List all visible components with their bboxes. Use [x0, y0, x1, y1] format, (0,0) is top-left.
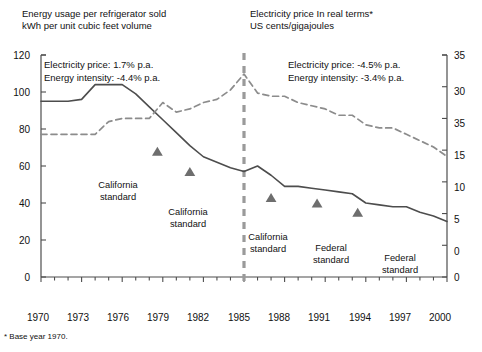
marker-label-california-2-line1: California — [168, 207, 207, 217]
marker-label-federal-1-line1: Federal — [315, 243, 347, 253]
xtick-1976: 1976 — [98, 312, 138, 323]
footnote: * Base year 1970. — [4, 332, 68, 341]
marker-label-california-3-line1: California — [248, 232, 287, 242]
marker-triangle-4 — [312, 199, 323, 208]
marker-triangle-2 — [184, 167, 195, 176]
xtick-1979: 1979 — [138, 312, 178, 323]
xtick-1994: 1994 — [340, 312, 380, 323]
xtick-2000: 2000 — [420, 312, 460, 323]
ytick-right-10: 5 — [454, 214, 480, 225]
marker-label-california-1-line1: California — [98, 180, 137, 190]
ytick-left-60: 60 — [4, 161, 30, 172]
xtick-1991: 1991 — [299, 312, 339, 323]
xtick-1997: 1997 — [380, 312, 420, 323]
ytick-right-30: 30 — [454, 86, 480, 97]
marker-label-federal-2: Federalstandard — [370, 253, 430, 276]
marker-triangle-5 — [352, 208, 363, 217]
ytick-right-35: 35 — [454, 50, 480, 61]
marker-label-california-1-line2: standard — [100, 192, 136, 202]
ytick-right-25: 35 — [454, 118, 480, 129]
ytick-right-0: 0 — [454, 272, 480, 283]
marker-label-federal-1: Federalstandard — [301, 243, 361, 266]
marker-label-federal-1-line2: standard — [313, 255, 349, 265]
marker-label-california-3-line2: standard — [250, 244, 286, 254]
marker-triangle-1 — [152, 147, 163, 156]
ytick-left-80: 80 — [4, 124, 30, 135]
ytick-left-120: 120 — [4, 50, 30, 61]
ytick-right-20: 15 — [454, 150, 480, 161]
ytick-left-0: 0 — [4, 272, 30, 283]
xtick-1985: 1985 — [219, 312, 259, 323]
marker-triangle-3 — [266, 193, 277, 202]
ytick-left-40: 40 — [4, 198, 30, 209]
ytick-right-5: 0 — [454, 246, 480, 257]
xtick-1973: 1973 — [58, 312, 98, 323]
marker-label-california-1: Californiastandard — [85, 180, 151, 203]
plot-area — [0, 0, 482, 352]
chart-root: Energy usage per refrigerator soldkWh pe… — [0, 0, 482, 352]
marker-label-federal-2-line1: Federal — [384, 253, 416, 263]
marker-label-california-2-line2: standard — [170, 219, 206, 229]
ytick-right-15: 10 — [454, 182, 480, 193]
xtick-1988: 1988 — [259, 312, 299, 323]
marker-label-california-3: Californiastandard — [236, 232, 300, 255]
ytick-left-100: 100 — [4, 87, 30, 98]
xtick-1970: 1970 — [18, 312, 58, 323]
ytick-left-20: 20 — [4, 235, 30, 246]
xtick-1982: 1982 — [178, 312, 218, 323]
marker-label-federal-2-line2: standard — [382, 265, 418, 275]
marker-label-california-2: Californiastandard — [155, 207, 221, 230]
